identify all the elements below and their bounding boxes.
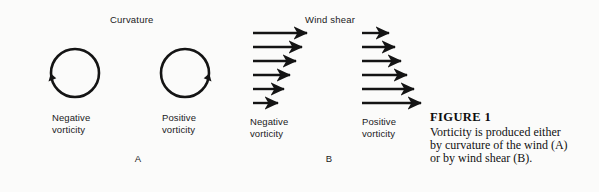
label-line-1: Positive (162, 112, 196, 124)
caption-line-3: or by wind shear (B). (430, 152, 596, 165)
panel-a-positive-vorticity-label: Positive vorticity (162, 112, 196, 135)
label-line-2: vorticity (162, 124, 196, 136)
positive-vorticity-arrow-stack (362, 33, 421, 103)
figure-caption-body: Vorticity is produced either by curvatur… (430, 126, 596, 166)
panel-b-positive-vorticity-label: Positive vorticity (362, 116, 396, 139)
label-line-2: vorticity (52, 124, 90, 136)
panel-a-header: Curvature (110, 14, 154, 25)
label-line-2: vorticity (362, 128, 396, 140)
label-line-2: vorticity (250, 128, 288, 140)
negative-vorticity-arrow-stack (253, 33, 307, 103)
wind-shear-diagram (250, 28, 430, 113)
figure-container: Curvature Negative vorticity Positive vo… (0, 0, 599, 192)
panel-b-negative-vorticity-label: Negative vorticity (250, 116, 288, 139)
label-line-1: Positive (362, 116, 396, 128)
panel-b-letter: B (319, 153, 339, 164)
figure-caption: FIGURE 1 Vorticity is produced either by… (430, 110, 596, 166)
figure-caption-title: FIGURE 1 (430, 110, 596, 125)
label-line-1: Negative (250, 116, 288, 128)
panel-a-letter: A (128, 153, 148, 164)
panel-b-header: Wind shear (305, 14, 355, 25)
curvature-diagram (40, 40, 220, 110)
panel-a-negative-vorticity-label: Negative vorticity (52, 112, 90, 135)
negative-vorticity-circle (47, 49, 99, 97)
label-line-1: Negative (52, 112, 90, 124)
positive-vorticity-circle (161, 49, 213, 97)
